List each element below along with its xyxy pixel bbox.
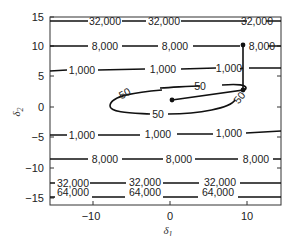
path-point-mid [241, 88, 246, 93]
contour-label: 1,000 [150, 63, 176, 75]
y-tick-label: 5 [38, 70, 44, 82]
contour-label: 64,000 [129, 186, 161, 198]
y-tick-label: 0 [38, 101, 44, 113]
contour-chart: 15 10 5 0 −5 −10 −15 −10 0 10 δ1 δ2 [0, 0, 294, 236]
contour-label: 8,000 [243, 153, 269, 165]
contour-label: 8,000 [249, 40, 275, 52]
contour-label: 1,000 [69, 129, 95, 141]
contour-label: 64,000 [202, 186, 234, 198]
contour-label: 8,000 [162, 40, 188, 52]
contour-label: 1,000 [69, 64, 95, 76]
x-tick-label: 0 [167, 210, 173, 222]
contour-label: 8,000 [166, 153, 192, 165]
y-tick-label: −15 [25, 192, 44, 204]
path-point-end [241, 43, 246, 48]
svg-text:δ2: δ2 [10, 107, 25, 116]
x-tick-label: 10 [241, 210, 253, 222]
contour-label: 1,000 [216, 62, 242, 74]
y-tick-label: −5 [31, 131, 44, 143]
contour-label: 1,000 [145, 128, 171, 140]
contour-label: 32,000 [241, 15, 273, 27]
y-tick-label: 10 [32, 40, 44, 52]
contour-label: 8,000 [92, 153, 118, 165]
contour-labels: 32,000 32,000 32,000 8,000 8,000 8,000 1… [57, 15, 275, 198]
y-tick-label: 15 [32, 11, 44, 23]
y-axis-title: δ2 [10, 107, 25, 116]
path-point-start [170, 98, 175, 103]
x-axis [93, 201, 247, 205]
x-tick-label: −10 [82, 210, 101, 222]
contour-label: 50 [152, 108, 164, 120]
contour-label: 32,000 [89, 15, 121, 27]
svg-text:δ1: δ1 [163, 224, 172, 236]
x-axis-title: δ1 [163, 224, 172, 236]
contour-label: 64,000 [57, 186, 89, 198]
contour-label: 50 [116, 85, 132, 101]
x-tick-labels: −10 0 10 [82, 210, 253, 222]
contour-label: 1,000 [216, 127, 242, 139]
contour-label: 8,000 [92, 40, 118, 52]
contour-label: 32,000 [148, 15, 180, 27]
y-tick-label: −10 [25, 162, 44, 174]
y-tick-labels: 15 10 5 0 −5 −10 −15 [25, 11, 44, 204]
contour-label: 50 [194, 80, 206, 92]
